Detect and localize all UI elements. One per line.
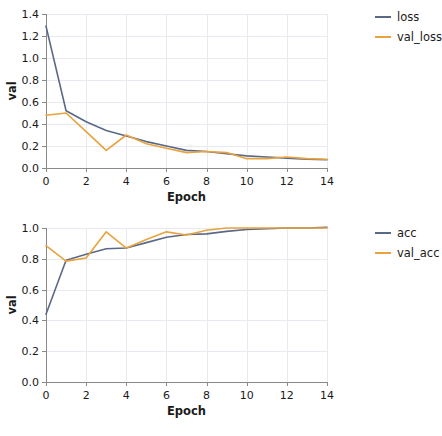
x-axis-tick — [287, 382, 288, 386]
x-axis-tick-label: 0 — [43, 175, 50, 188]
x-axis-tick-label: 12 — [280, 175, 294, 188]
x-axis-tick-label: 8 — [203, 175, 210, 188]
y-axis-tick-label: 0.0 — [8, 376, 39, 389]
series-line-loss — [46, 26, 327, 160]
legend-swatch-loss — [375, 16, 391, 18]
chart-legend[interactable]: lossval_loss — [375, 8, 442, 48]
x-axis-tick-label: 4 — [123, 389, 130, 402]
y-axis-tick-label: 1.0 — [8, 52, 39, 65]
x-axis-tick — [327, 168, 328, 172]
x-axis-tick — [46, 382, 47, 386]
chart-panel-accuracy: 024681012140.00.20.40.60.81.0Epochval ac… — [0, 218, 438, 436]
x-axis-tick — [247, 168, 248, 172]
x-axis-tick-label: 2 — [83, 175, 90, 188]
y-axis-tick — [42, 382, 46, 383]
x-axis-tick-label: 12 — [280, 389, 294, 402]
x-axis-title: Epoch — [167, 190, 206, 204]
y-axis-tick — [42, 168, 46, 169]
series-line-val_loss — [46, 113, 327, 159]
legend-label-val_loss: val_loss — [397, 30, 442, 44]
data-lines — [46, 14, 327, 168]
y-axis-tick-label: 1.4 — [8, 8, 39, 21]
x-axis-tick — [327, 382, 328, 386]
plot-area-accuracy: 024681012140.00.20.40.60.81.0Epochval — [46, 228, 327, 382]
y-axis-tick-label: 0.0 — [8, 162, 39, 175]
y-axis-tick-label: 0.4 — [8, 118, 39, 131]
series-line-val_acc — [46, 228, 327, 261]
gridline-vertical — [327, 228, 328, 382]
y-axis-title: val — [5, 81, 19, 100]
legend-label-val_acc: val_acc — [397, 246, 440, 260]
x-axis-tick-label: 6 — [163, 389, 170, 402]
legend-item-loss[interactable]: loss — [375, 8, 442, 25]
legend-swatch-val_loss — [375, 36, 391, 38]
x-axis-tick — [166, 382, 167, 386]
x-axis-tick — [86, 168, 87, 172]
x-axis-tick-label: 4 — [123, 175, 130, 188]
x-axis-tick-label: 2 — [83, 389, 90, 402]
x-axis-tick-label: 10 — [240, 175, 254, 188]
gridline-vertical — [327, 14, 328, 168]
y-axis-tick-label: 0.6 — [8, 283, 39, 296]
y-axis-tick-label: 0.4 — [8, 314, 39, 327]
x-axis-tick-label: 14 — [320, 175, 334, 188]
y-axis-tick-label: 0.2 — [8, 140, 39, 153]
x-axis-tick — [247, 382, 248, 386]
y-axis-tick-label: 0.2 — [8, 345, 39, 358]
x-axis-tick-label: 8 — [203, 389, 210, 402]
legend-label-loss: loss — [397, 10, 419, 24]
x-axis-tick-label: 6 — [163, 175, 170, 188]
chart-panel-loss: 024681012140.00.20.40.60.81.01.21.4Epoch… — [0, 0, 438, 218]
legend-item-val_acc[interactable]: val_acc — [375, 244, 440, 261]
x-axis-tick-label: 10 — [240, 389, 254, 402]
x-axis-line — [46, 382, 327, 383]
x-axis-tick — [126, 382, 127, 386]
y-axis-title: val — [5, 295, 19, 314]
legend-item-acc[interactable]: acc — [375, 224, 440, 241]
y-axis-tick-label: 1.2 — [8, 30, 39, 43]
x-axis-title: Epoch — [167, 404, 206, 418]
x-axis-tick — [207, 382, 208, 386]
x-axis-tick — [86, 382, 87, 386]
plot-area-loss: 024681012140.00.20.40.60.81.01.21.4Epoch… — [46, 14, 327, 168]
x-axis-line — [46, 168, 327, 169]
legend-swatch-acc — [375, 232, 391, 234]
x-axis-tick-label: 14 — [320, 389, 334, 402]
x-axis-tick — [287, 168, 288, 172]
y-axis-tick-label: 0.8 — [8, 252, 39, 265]
x-axis-tick — [207, 168, 208, 172]
chart-legend[interactable]: accval_acc — [375, 224, 440, 264]
x-axis-tick-label: 0 — [43, 389, 50, 402]
legend-swatch-val_acc — [375, 252, 391, 254]
series-line-acc — [46, 227, 327, 314]
y-axis-tick-label: 1.0 — [8, 222, 39, 235]
data-lines — [46, 228, 327, 382]
legend-item-val_loss[interactable]: val_loss — [375, 28, 442, 45]
x-axis-tick — [46, 168, 47, 172]
x-axis-tick — [166, 168, 167, 172]
legend-label-acc: acc — [397, 226, 417, 240]
x-axis-tick — [126, 168, 127, 172]
